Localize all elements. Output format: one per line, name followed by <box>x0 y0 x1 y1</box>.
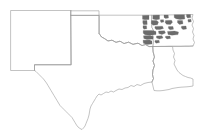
shaded-county <box>164 15 169 18</box>
shaded-county <box>174 15 185 20</box>
shaded-county <box>151 20 158 25</box>
shaded-county <box>168 31 179 35</box>
map-canvas <box>0 0 212 137</box>
shaded-county <box>143 26 147 29</box>
shaded-county <box>143 30 156 35</box>
state-new-mexico <box>11 11 71 71</box>
shaded-county <box>153 15 160 20</box>
map-figure <box>0 0 212 137</box>
state-louisiana <box>152 46 193 91</box>
shaded-county <box>155 40 160 43</box>
shaded-county <box>188 19 191 22</box>
shaded-county <box>143 21 147 25</box>
shaded-county <box>143 15 150 19</box>
shaded-county <box>160 20 163 23</box>
shaded-county <box>187 15 191 18</box>
